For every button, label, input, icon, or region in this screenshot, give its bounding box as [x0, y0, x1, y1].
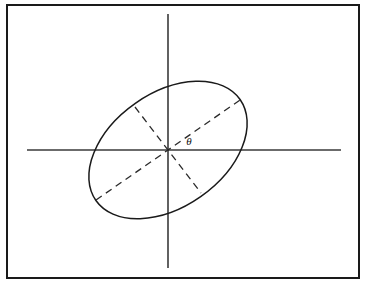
ellipse-diagram: θ — [0, 0, 366, 284]
figure-canvas: θ — [0, 0, 366, 284]
outer-border-frame — [7, 5, 359, 278]
theta-angle-label: θ — [186, 135, 192, 147]
